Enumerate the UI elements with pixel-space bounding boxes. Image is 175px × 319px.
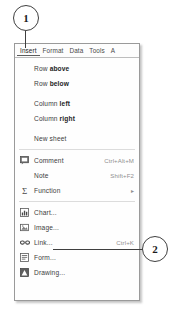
insert-menu-panel: Insert Format Data Tools A Row above Row… bbox=[14, 43, 140, 301]
menu-item-label-text: Column bbox=[34, 100, 60, 107]
menu-item-comment[interactable]: Comment Ctrl+Alt+M bbox=[15, 153, 139, 168]
tools-menu-tab[interactable]: Tools bbox=[86, 47, 107, 54]
menu-item-label: Row below bbox=[34, 80, 69, 87]
menu-item-label: Image... bbox=[34, 224, 59, 231]
menu-item-label-emphasis: below bbox=[50, 80, 69, 87]
menu-item-label: Note bbox=[34, 172, 49, 179]
menu-item-label-text: Row bbox=[34, 65, 50, 72]
svg-text:Σ: Σ bbox=[22, 186, 27, 196]
menu-item-chart[interactable]: Chart... bbox=[15, 205, 139, 220]
data-menu-tab[interactable]: Data bbox=[66, 47, 86, 54]
format-menu-tab[interactable]: Format bbox=[40, 47, 67, 54]
chart-icon bbox=[19, 207, 30, 218]
insert-menu-tab[interactable]: Insert bbox=[17, 47, 40, 56]
menu-item-label: Comment bbox=[34, 157, 64, 164]
menu-item-label-text: Row bbox=[34, 80, 50, 87]
chevron-right-icon: ▸ bbox=[131, 188, 134, 194]
callout-2-leader-line bbox=[53, 249, 143, 250]
menu-item-label-emphasis: right bbox=[60, 115, 75, 122]
comment-icon bbox=[19, 155, 30, 166]
menu-item-shortcut: Ctrl+Alt+M bbox=[104, 157, 134, 164]
menu-item-column-right[interactable]: Column right bbox=[15, 111, 139, 126]
menu-item-label: Form... bbox=[34, 254, 56, 261]
menu-item-row-below[interactable]: Row below bbox=[15, 76, 139, 91]
menu-item-label-emphasis: above bbox=[50, 65, 70, 72]
menu-item-label: Chart... bbox=[34, 209, 57, 216]
menu-item-label-text: Column bbox=[34, 115, 60, 122]
menu-item-label: Column left bbox=[34, 100, 70, 107]
menu-item-image[interactable]: Image... bbox=[15, 220, 139, 235]
menu-item-drawing[interactable]: Drawing... bbox=[15, 265, 139, 280]
menu-item-shortcut: Shift+F2 bbox=[110, 172, 134, 179]
menu-item-note[interactable]: Note Shift+F2 bbox=[15, 168, 139, 183]
menu-separator bbox=[19, 149, 135, 150]
menu-separator bbox=[19, 201, 135, 202]
menu-item-row-above[interactable]: Row above bbox=[15, 61, 139, 76]
menu-item-label: Drawing... bbox=[34, 269, 65, 276]
callout-1-leader-line bbox=[25, 31, 26, 48]
menu-item-label-emphasis: left bbox=[60, 100, 71, 107]
menu-item-label: Function bbox=[34, 187, 61, 194]
image-icon bbox=[19, 222, 30, 233]
menu-item-column-left[interactable]: Column left bbox=[15, 96, 139, 111]
menu-item-new-sheet[interactable]: New sheet bbox=[15, 131, 139, 146]
callout-badge-1: 1 bbox=[13, 5, 39, 31]
link-icon bbox=[19, 237, 30, 248]
menu-item-form[interactable]: Form... bbox=[15, 250, 139, 265]
callout-badge-2: 2 bbox=[142, 236, 168, 262]
form-icon bbox=[19, 252, 30, 263]
menu-item-label: Link... bbox=[34, 239, 53, 246]
menu-item-label: New sheet bbox=[34, 135, 67, 142]
menu-item-function[interactable]: Σ Function ▸ bbox=[15, 183, 139, 198]
addons-menu-tab[interactable]: A bbox=[108, 47, 118, 54]
sigma-icon: Σ bbox=[19, 185, 30, 196]
drawing-icon bbox=[19, 267, 30, 278]
menu-bar: Insert Format Data Tools A bbox=[15, 44, 139, 58]
menu-item-shortcut: Ctrl+K bbox=[116, 239, 134, 246]
menu-item-label: Row above bbox=[34, 65, 69, 72]
menu-item-label: Column right bbox=[34, 115, 75, 122]
